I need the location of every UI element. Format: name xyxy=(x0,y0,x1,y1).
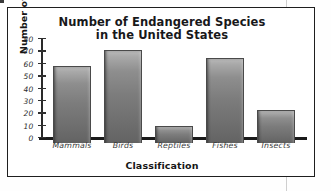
y-tick-60: 60 xyxy=(38,63,46,64)
y-tick-label-20: 20 xyxy=(24,109,34,118)
bar-birds xyxy=(104,50,142,143)
y-tick-50: 50 xyxy=(38,75,46,76)
plot-area: 01020304050607080 MammalsBirdsReptilesFi… xyxy=(41,38,307,144)
bar-mammals xyxy=(53,66,91,143)
y-tick-label-50: 50 xyxy=(24,72,34,81)
y-tick-label-60: 60 xyxy=(24,59,34,68)
scan-artifact-mark xyxy=(0,0,4,3)
chart-frame: Number of Endangered Species in the Unit… xyxy=(7,7,315,177)
bar-insects xyxy=(257,110,295,143)
y-tick-label-70: 70 xyxy=(24,47,34,56)
category-label-birds: Birds xyxy=(95,141,151,150)
y-tick-label-40: 40 xyxy=(24,84,34,93)
category-label-insects: Insects xyxy=(248,141,304,150)
y-tick-label-80: 80 xyxy=(24,35,34,44)
y-tick-30: 30 xyxy=(38,100,46,101)
y-tick-label-0: 0 xyxy=(29,134,34,143)
y-tick-0: 0 xyxy=(38,137,46,138)
category-label-mammals: Mammals xyxy=(44,141,100,150)
category-label-fishes: Fishes xyxy=(197,141,253,150)
y-tick-10: 10 xyxy=(38,125,46,126)
y-tick-label-10: 10 xyxy=(24,121,34,130)
scanned-page: Number of Endangered Species in the Unit… xyxy=(0,0,331,191)
x-axis-title: Classification xyxy=(8,160,316,171)
bar-fishes xyxy=(206,58,244,143)
category-label-reptiles: Reptiles xyxy=(146,141,202,150)
y-tick-40: 40 xyxy=(38,88,46,89)
y-tick-label-30: 30 xyxy=(24,96,34,105)
y-tick-80: 80 xyxy=(38,38,46,39)
y-tick-70: 70 xyxy=(38,50,46,51)
y-tick-20: 20 xyxy=(38,112,46,113)
